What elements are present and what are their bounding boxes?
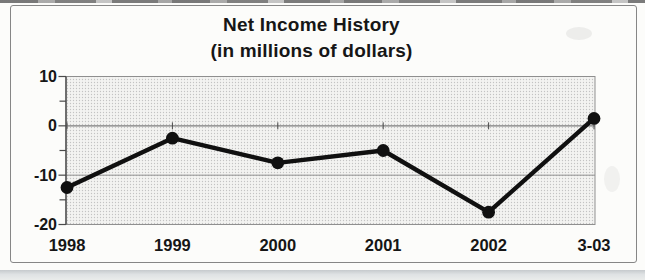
y-tick-label--10: -10 [34, 167, 57, 184]
x-tick-label-2001: 2001 [365, 236, 402, 254]
x-tick-label-1998: 1998 [49, 236, 86, 254]
scan-artifact-bottom-band [0, 270, 645, 280]
data-point-3-03 [588, 112, 601, 125]
x-tick-label-1999: 1999 [154, 236, 191, 254]
x-tick-label-2002: 2002 [470, 236, 507, 254]
data-point-2000 [271, 156, 284, 169]
y-tick-label--20: -20 [34, 216, 57, 233]
y-tick-label-0: 0 [48, 117, 57, 134]
net-income-line-chart: 100-10-20199819992000200120023-03 [0, 0, 645, 280]
x-tick-label-2000: 2000 [259, 236, 296, 254]
y-tick-label-10: 10 [39, 68, 57, 85]
data-point-1998 [61, 181, 74, 194]
x-tick-label-3-03: 3-03 [577, 236, 610, 254]
data-point-2002 [482, 206, 495, 219]
scanned-chart-page: Net Income History (in millions of dolla… [0, 0, 645, 280]
data-point-2001 [377, 144, 390, 157]
data-point-1999 [166, 132, 179, 145]
